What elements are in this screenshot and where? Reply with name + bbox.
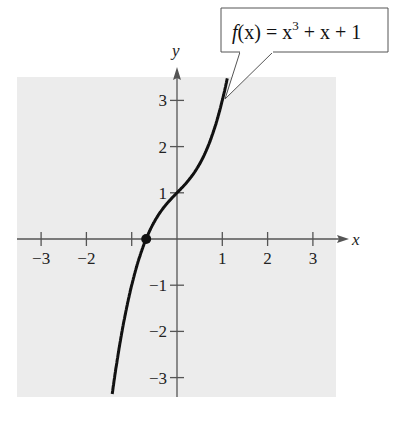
y-tick-label: −1 — [149, 276, 167, 295]
zero-point-marker — [141, 234, 151, 244]
x-tick-label: −3 — [32, 249, 50, 268]
y-tick-label: 3 — [159, 91, 168, 110]
y-tick-label: 2 — [159, 138, 168, 157]
y-tick-label: −3 — [149, 369, 167, 388]
x-tick-label: 2 — [263, 249, 272, 268]
y-tick-label: −2 — [149, 322, 167, 341]
x-tick-label: 3 — [309, 249, 318, 268]
function-graph: −3−2123−3−2−1123 x y f(x) = x3 + x + 1 — [0, 0, 405, 422]
y-axis-label: y — [170, 41, 180, 60]
x-tick-label: 1 — [218, 249, 227, 268]
y-tick-label: 1 — [159, 184, 168, 203]
x-tick-label: −2 — [77, 249, 95, 268]
x-axis-label: x — [351, 230, 360, 249]
